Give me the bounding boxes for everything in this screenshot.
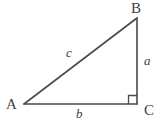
side-label-a: a	[144, 54, 151, 67]
right-angle-marker-icon	[129, 96, 138, 105]
side-label-b: b	[76, 107, 83, 120]
side-label-c: c	[66, 46, 72, 59]
vertex-label-c: C	[144, 103, 154, 118]
side-c-hypotenuse-line	[24, 18, 137, 104]
vertex-label-b: B	[131, 1, 141, 16]
vertex-label-a: A	[6, 97, 17, 112]
geometry-figure-canvas: A B C c a b	[0, 0, 160, 128]
